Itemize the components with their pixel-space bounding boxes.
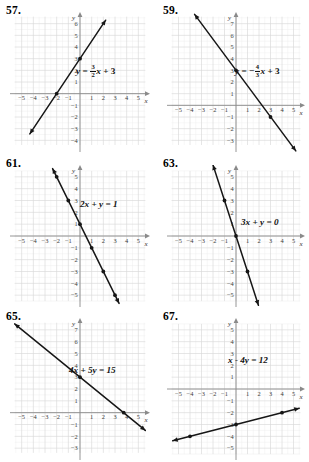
problem-panel-63: 63. −5−4−3−2−112345−5−4−3−2−112345xy 3x … (163, 157, 309, 307)
problem-panel-59: 59. −5−4−3−2−112345−3−2−11234567xy y = −… (163, 4, 309, 154)
svg-text:−2: −2 (227, 256, 234, 263)
svg-text:2: 2 (257, 237, 260, 244)
svg-text:−5: −5 (18, 237, 25, 244)
svg-text:1: 1 (90, 237, 93, 244)
svg-text:4: 4 (280, 106, 284, 113)
graph-61: −5−4−3−2−112345−5−4−3−2−112345xy (10, 165, 150, 307)
svg-text:x: x (143, 240, 148, 248)
svg-text:−2: −2 (71, 256, 78, 263)
svg-text:3: 3 (75, 55, 78, 62)
svg-text:3: 3 (113, 237, 116, 244)
svg-text:−2: −2 (71, 433, 78, 440)
svg-text:−4: −4 (30, 94, 38, 101)
svg-text:−5: −5 (227, 291, 234, 298)
svg-text:−4: −4 (187, 237, 195, 244)
problem-panel-65: 65. −5−4−3−2−112345−3−2−11234567xy 4x + … (6, 310, 154, 460)
svg-text:−4: −4 (227, 280, 235, 287)
graph-65: −5−4−3−2−112345−3−2−11234567xy (10, 318, 150, 460)
svg-text:2: 2 (231, 209, 234, 216)
svg-text:−5: −5 (71, 291, 78, 298)
svg-text:−1: −1 (71, 244, 78, 251)
svg-text:−5: −5 (175, 390, 182, 397)
svg-text:3: 3 (113, 413, 116, 420)
svg-text:−5: −5 (18, 94, 25, 101)
svg-text:−3: −3 (42, 237, 49, 244)
svg-text:4: 4 (280, 390, 284, 397)
svg-text:3: 3 (113, 94, 116, 101)
svg-text:−3: −3 (71, 444, 78, 451)
svg-text:1: 1 (90, 413, 93, 420)
graph-59: −5−4−3−2−112345−3−2−11234567xy (167, 12, 305, 152)
equation-label-65: 4x + 5y = 15 (69, 365, 116, 375)
svg-text:−1: −1 (65, 413, 72, 420)
equation-label-57: y = 32x + 3 (76, 64, 115, 79)
svg-text:1: 1 (75, 220, 78, 227)
svg-text:5: 5 (231, 173, 234, 180)
svg-text:−3: −3 (71, 268, 78, 275)
svg-text:1: 1 (246, 390, 249, 397)
svg-text:−2: −2 (71, 113, 78, 120)
svg-text:2: 2 (75, 385, 78, 392)
svg-text:−2: −2 (210, 237, 217, 244)
svg-text:−1: −1 (71, 421, 78, 428)
svg-text:−1: −1 (221, 390, 228, 397)
svg-text:−5: −5 (175, 237, 182, 244)
svg-text:x: x (298, 240, 303, 248)
svg-text:4: 4 (280, 237, 284, 244)
svg-text:−1: −1 (65, 94, 72, 101)
svg-text:2: 2 (231, 78, 234, 85)
svg-text:1: 1 (75, 78, 78, 85)
svg-text:−2: −2 (53, 413, 60, 420)
svg-text:2: 2 (102, 94, 105, 101)
svg-text:5: 5 (137, 413, 140, 420)
svg-text:−5: −5 (227, 444, 234, 451)
svg-text:−2: −2 (227, 409, 234, 416)
svg-text:5: 5 (292, 106, 295, 113)
svg-text:5: 5 (137, 237, 140, 244)
svg-text:6: 6 (75, 338, 78, 345)
svg-text:1: 1 (90, 94, 93, 101)
equation-label-67: x - 4y = 12 (228, 355, 268, 365)
svg-text:x: x (143, 416, 148, 424)
graph-67: −5−4−3−2−112345−5−4−3−2−112345xy (167, 318, 305, 460)
graph-63: −5−4−3−2−112345−5−4−3−2−112345xy (167, 165, 305, 307)
problem-panel-61: 61. −5−4−3−2−112345−5−4−3−2−112345xy 2x … (6, 157, 154, 307)
svg-text:5: 5 (292, 237, 295, 244)
svg-text:−1: −1 (227, 244, 234, 251)
svg-text:5: 5 (137, 94, 140, 101)
svg-text:x: x (298, 393, 303, 401)
svg-text:1: 1 (231, 90, 234, 97)
svg-text:−1: −1 (65, 237, 72, 244)
svg-text:−1: −1 (227, 113, 234, 120)
svg-text:3: 3 (269, 390, 272, 397)
svg-text:2: 2 (102, 237, 105, 244)
svg-text:3: 3 (75, 197, 78, 204)
svg-text:x: x (143, 97, 148, 105)
svg-text:−4: −4 (71, 280, 79, 287)
svg-text:3: 3 (269, 237, 272, 244)
svg-text:6: 6 (75, 20, 78, 27)
equation-label-63: 3x + y = 0 (241, 217, 279, 227)
svg-text:1: 1 (246, 106, 249, 113)
svg-text:−4: −4 (30, 413, 38, 420)
frac-num-57: 3 (90, 64, 95, 71)
equation-const-57: 3 (111, 66, 116, 76)
svg-text:−3: −3 (198, 106, 205, 113)
svg-text:x: x (298, 109, 303, 117)
svg-text:−3: −3 (71, 125, 78, 132)
svg-text:4: 4 (125, 237, 129, 244)
svg-text:5: 5 (292, 390, 295, 397)
svg-text:−4: −4 (227, 433, 235, 440)
equation-label-59: y = −43x + 3 (235, 64, 280, 79)
problem-panel-67: 67. −5−4−3−2−112345−5−4−3−2−112345xy x -… (163, 310, 309, 460)
worksheet-page: 57. −5−4−3−2−112345−4−3−2−1123456xy y = … (0, 0, 309, 462)
svg-text:−2: −2 (53, 237, 60, 244)
svg-text:−4: −4 (187, 390, 195, 397)
svg-text:−1: −1 (71, 102, 78, 109)
graph-57: −5−4−3−2−112345−4−3−2−1123456xy (10, 12, 150, 152)
svg-text:5: 5 (231, 326, 234, 333)
svg-text:−5: −5 (175, 106, 182, 113)
equation-const-59: 3 (275, 66, 280, 76)
svg-text:5: 5 (75, 32, 78, 39)
svg-text:−3: −3 (198, 237, 205, 244)
